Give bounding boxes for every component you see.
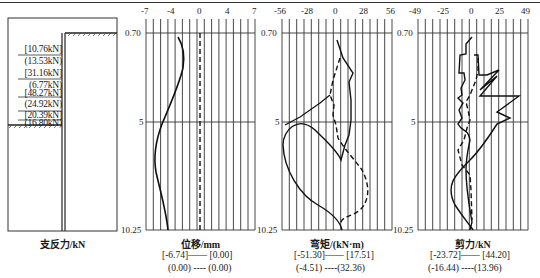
- moment-xtick-3: 0: [333, 6, 338, 16]
- moment-xtick-1: -56: [274, 6, 286, 16]
- shear-ytick-2: 5: [411, 117, 416, 127]
- disp-ytick-2: 5: [139, 117, 144, 127]
- disp-xtick-2: -4: [167, 6, 175, 16]
- moment-legend-dashed: (-4.51) ----(32.36): [296, 263, 365, 273]
- disp-legend-solid: [-6.74]—— [0.00]: [162, 250, 232, 260]
- disp-xtick-4: 4: [225, 6, 230, 16]
- disp-xtick-1: -7: [141, 6, 149, 16]
- moment-legend-solid: [-51.30]—— [17.51]: [294, 250, 374, 260]
- support-label-5: [48.27kN]: [16, 88, 62, 98]
- moment-xtick-2: -28: [301, 6, 313, 16]
- shear-title: 剪力/kN: [418, 236, 528, 251]
- support-label-1: [10.76kN]: [16, 44, 62, 54]
- moment-ytick-2: 5: [275, 117, 280, 127]
- support-title: 支反力/kN: [8, 236, 117, 251]
- shear-xtick-1: -49: [409, 6, 421, 16]
- disp-ytick-3: 10.25: [121, 225, 141, 235]
- moment-xtick-4: 28: [359, 6, 368, 16]
- shear-xtick-3: 0: [469, 6, 474, 16]
- moment-ytick-1: 0.70: [261, 28, 277, 38]
- shear-ytick-3: 10.25: [393, 225, 413, 235]
- shear-ytick-1: 0.70: [397, 28, 413, 38]
- displacement-plot: [146, 19, 255, 230]
- shear-legend-dashed: (-16.44) ----(13.96): [428, 263, 502, 273]
- disp-ytick-1: 0.70: [125, 28, 141, 38]
- disp-xtick-5: 7: [252, 6, 257, 16]
- support-label-8: (16.80kN): [16, 118, 62, 128]
- shear-xtick-4: 25: [495, 6, 504, 16]
- disp-legend-dashed: (0.00) ---- (0.00): [168, 263, 231, 273]
- moment-ytick-3: 10.25: [257, 225, 277, 235]
- support-label-2: (13.53kN): [16, 56, 62, 66]
- shear-plot: [418, 19, 528, 230]
- moment-plot: [282, 19, 392, 230]
- moment-xtick-5: 56: [386, 6, 395, 16]
- support-label-3: [31.16kN]: [16, 68, 62, 78]
- support-label-6: (24.92kN): [16, 99, 62, 109]
- shear-xtick-5: 49: [521, 6, 530, 16]
- disp-xtick-3: 0: [197, 6, 202, 16]
- shear-xtick-2: -25: [437, 6, 449, 16]
- disp-title: 位移/mm: [146, 236, 255, 251]
- moment-title: 弯矩/(kN·m): [282, 236, 392, 251]
- shear-legend-solid: [-23.72]—— [44.20]: [430, 250, 510, 260]
